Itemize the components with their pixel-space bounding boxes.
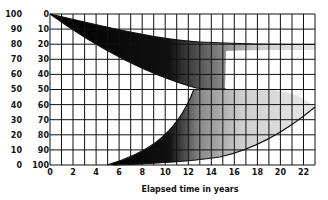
svg-text:12: 12 <box>183 168 194 177</box>
svg-text:70: 70 <box>11 55 23 64</box>
upper-band-area <box>50 14 315 89</box>
svg-text:50: 50 <box>38 85 50 94</box>
svg-text:40: 40 <box>11 101 23 110</box>
svg-text:60: 60 <box>38 101 50 110</box>
y-axis-inner: 0 10 20 30 40 50 60 70 80 90 100 <box>32 10 49 170</box>
chart: 100 90 80 70 60 50 40 30 20 10 0 0 10 20… <box>0 0 328 200</box>
svg-text:30: 30 <box>11 116 23 125</box>
svg-text:16: 16 <box>229 168 241 177</box>
x-axis: 0 2 4 6 8 10 12 14 16 18 20 22 <box>47 168 309 177</box>
svg-text:30: 30 <box>38 55 50 64</box>
svg-text:2: 2 <box>70 168 76 177</box>
svg-text:80: 80 <box>11 40 23 49</box>
svg-text:0: 0 <box>16 161 22 170</box>
svg-text:22: 22 <box>298 168 309 177</box>
svg-text:8: 8 <box>139 168 145 177</box>
svg-text:70: 70 <box>38 116 50 125</box>
svg-text:80: 80 <box>38 131 50 140</box>
svg-text:6: 6 <box>116 168 122 177</box>
x-axis-title: Elapsed time in years <box>141 185 238 194</box>
svg-text:10: 10 <box>38 25 50 34</box>
svg-text:10: 10 <box>160 168 172 177</box>
svg-text:4: 4 <box>93 168 99 177</box>
svg-text:100: 100 <box>5 10 22 19</box>
svg-text:50: 50 <box>11 85 23 94</box>
svg-text:0: 0 <box>47 168 53 177</box>
svg-text:90: 90 <box>38 146 50 155</box>
svg-text:60: 60 <box>11 70 23 79</box>
svg-text:40: 40 <box>38 70 50 79</box>
svg-text:90: 90 <box>11 25 23 34</box>
svg-text:20: 20 <box>275 168 287 177</box>
y-axis-outer: 100 90 80 70 60 50 40 30 20 10 0 <box>5 10 22 170</box>
svg-text:14: 14 <box>206 168 218 177</box>
svg-text:18: 18 <box>252 168 264 177</box>
svg-text:20: 20 <box>38 40 50 49</box>
svg-text:10: 10 <box>11 146 23 155</box>
svg-text:0: 0 <box>43 10 49 19</box>
svg-text:20: 20 <box>11 131 23 140</box>
